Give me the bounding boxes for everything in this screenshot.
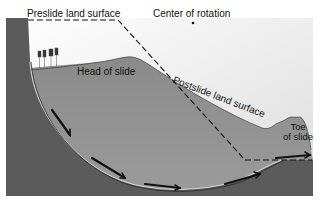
head-of-slide-label: Head of slide bbox=[77, 67, 135, 77]
center-of-rotation-dot bbox=[192, 22, 195, 25]
center-of-rotation-label: Center of rotation bbox=[153, 9, 230, 19]
preslide-surface-label: Preslide land surface bbox=[27, 9, 120, 19]
toe-label-line2: of slide bbox=[283, 131, 313, 142]
toe-of-slide-label: Toe of slide bbox=[283, 122, 313, 142]
diagram-canvas bbox=[0, 0, 324, 207]
landslide-diagram: Preslide land surface Center of rotation… bbox=[0, 0, 324, 207]
